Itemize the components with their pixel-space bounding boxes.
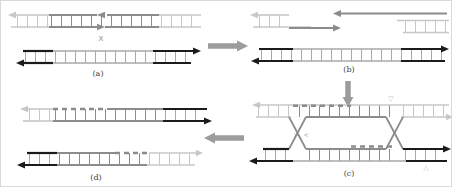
donor-right-ladder-end <box>397 21 449 33</box>
joint-bottom-duplex <box>249 146 451 165</box>
left-crossover-junction: > < <box>289 117 309 149</box>
panel-d-recombinant-duplexes: (d) <box>17 106 212 182</box>
right-arrowhead-icon <box>196 150 203 156</box>
left-arrowhead-icon <box>20 106 28 112</box>
duplex-recombinant-bottom <box>17 150 203 169</box>
duplex-recombinant-top <box>20 106 212 125</box>
right-arrowhead-icon <box>443 146 451 153</box>
panel-b-label: (b) <box>343 65 354 74</box>
duplex-recipient <box>16 48 201 67</box>
flow-arrow-right-icon <box>208 41 248 52</box>
panel-d-label: (d) <box>90 173 101 182</box>
left-arrowhead-icon <box>333 10 341 17</box>
right-arrowhead-icon <box>204 118 212 125</box>
panel-a-initial-duplexes: X (a) <box>8 12 201 78</box>
junction-triangle-up: △ <box>423 164 429 172</box>
junction-triangle-down: ▽ <box>388 95 394 103</box>
flow-arrow-down-icon <box>343 81 354 107</box>
junction-chevron-left: < <box>303 131 308 138</box>
right-arrowhead-icon <box>441 46 449 53</box>
right-arrowhead-icon <box>446 114 452 120</box>
right-arrowhead-icon <box>193 48 201 55</box>
released-strand-forward <box>289 25 341 32</box>
left-arrowhead-icon <box>17 162 25 169</box>
left-arrowhead-icon <box>8 12 16 18</box>
panel-c-label: (c) <box>344 169 355 178</box>
duplex-nicked-donor: X <box>8 12 201 43</box>
panel-c-joint-molecule: > < ▽ △ (c) <box>249 95 452 178</box>
released-strand-reverse <box>333 10 447 17</box>
donor-left-ladder-end <box>250 12 311 27</box>
nick-mark: X <box>99 35 104 43</box>
left-arrowhead-icon <box>16 60 24 67</box>
flow-arrow-left-icon <box>204 133 244 144</box>
panel-b-melted-strands: (b) <box>250 10 449 74</box>
dna-strand-exchange-diagram: X (a) <box>1 1 452 187</box>
left-arrowhead-icon <box>251 58 259 65</box>
junction-chevron-right: > <box>293 131 298 138</box>
right-arrowhead-icon <box>333 25 341 32</box>
duplex-recipient <box>251 46 449 65</box>
panel-a-label: (a) <box>92 69 103 78</box>
joint-top-duplex <box>252 102 452 120</box>
left-arrowhead-icon <box>252 102 260 108</box>
left-arrowhead-icon <box>249 158 257 165</box>
figure-canvas: X (a) <box>0 0 452 187</box>
left-arrowhead-icon <box>250 12 258 18</box>
